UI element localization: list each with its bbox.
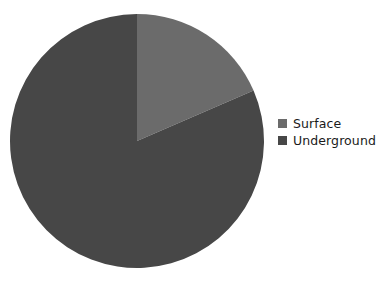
- legend-item-surface[interactable]: Surface: [278, 116, 382, 131]
- chart-legend: Surface Underground: [278, 116, 382, 148]
- legend-item-underground[interactable]: Underground: [278, 133, 382, 148]
- square-swatch-icon: [278, 119, 287, 128]
- legend-item-label: Underground: [293, 133, 376, 148]
- pie-slices-group: [10, 14, 264, 268]
- legend-item-label: Surface: [293, 116, 341, 131]
- square-swatch-icon: [278, 136, 287, 145]
- pie-chart-figure: Surface Underground: [0, 0, 383, 282]
